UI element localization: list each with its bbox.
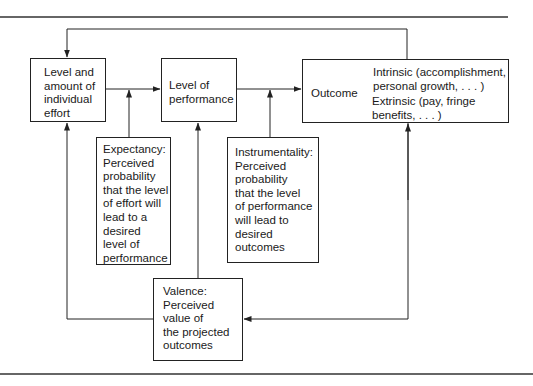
expectancy-box: Expectancy: Perceived probability that t… [96,137,171,265]
effort-box: Level and amount of individual effort [30,58,106,122]
valence-label: Valence: Perceived value of the projecte… [163,285,242,353]
performance-label: Level of performance [169,79,236,106]
expectancy-label: Expectancy: Perceived probability that t… [103,143,170,265]
extrinsic-outcome-label: Extrinsic (pay, fringe benefits, . . . ) [372,95,475,122]
performance-box: Level of performance [161,58,237,122]
instrumentality-label: Instrumentality: Perceived probability t… [235,146,318,255]
outcome-box: Outcome Intrinsic (accomplishment, perso… [302,59,509,123]
instrumentality-box: Instrumentality: Perceived probability t… [227,137,319,263]
valence-box: Valence: Perceived value of the projecte… [153,278,243,361]
intrinsic-outcome-label: Intrinsic (accomplishment, personal grow… [373,66,506,93]
feedback-arrow [67,29,407,59]
outcome-label: Outcome [311,87,358,101]
effort-label: Level and amount of individual effort [44,66,105,120]
